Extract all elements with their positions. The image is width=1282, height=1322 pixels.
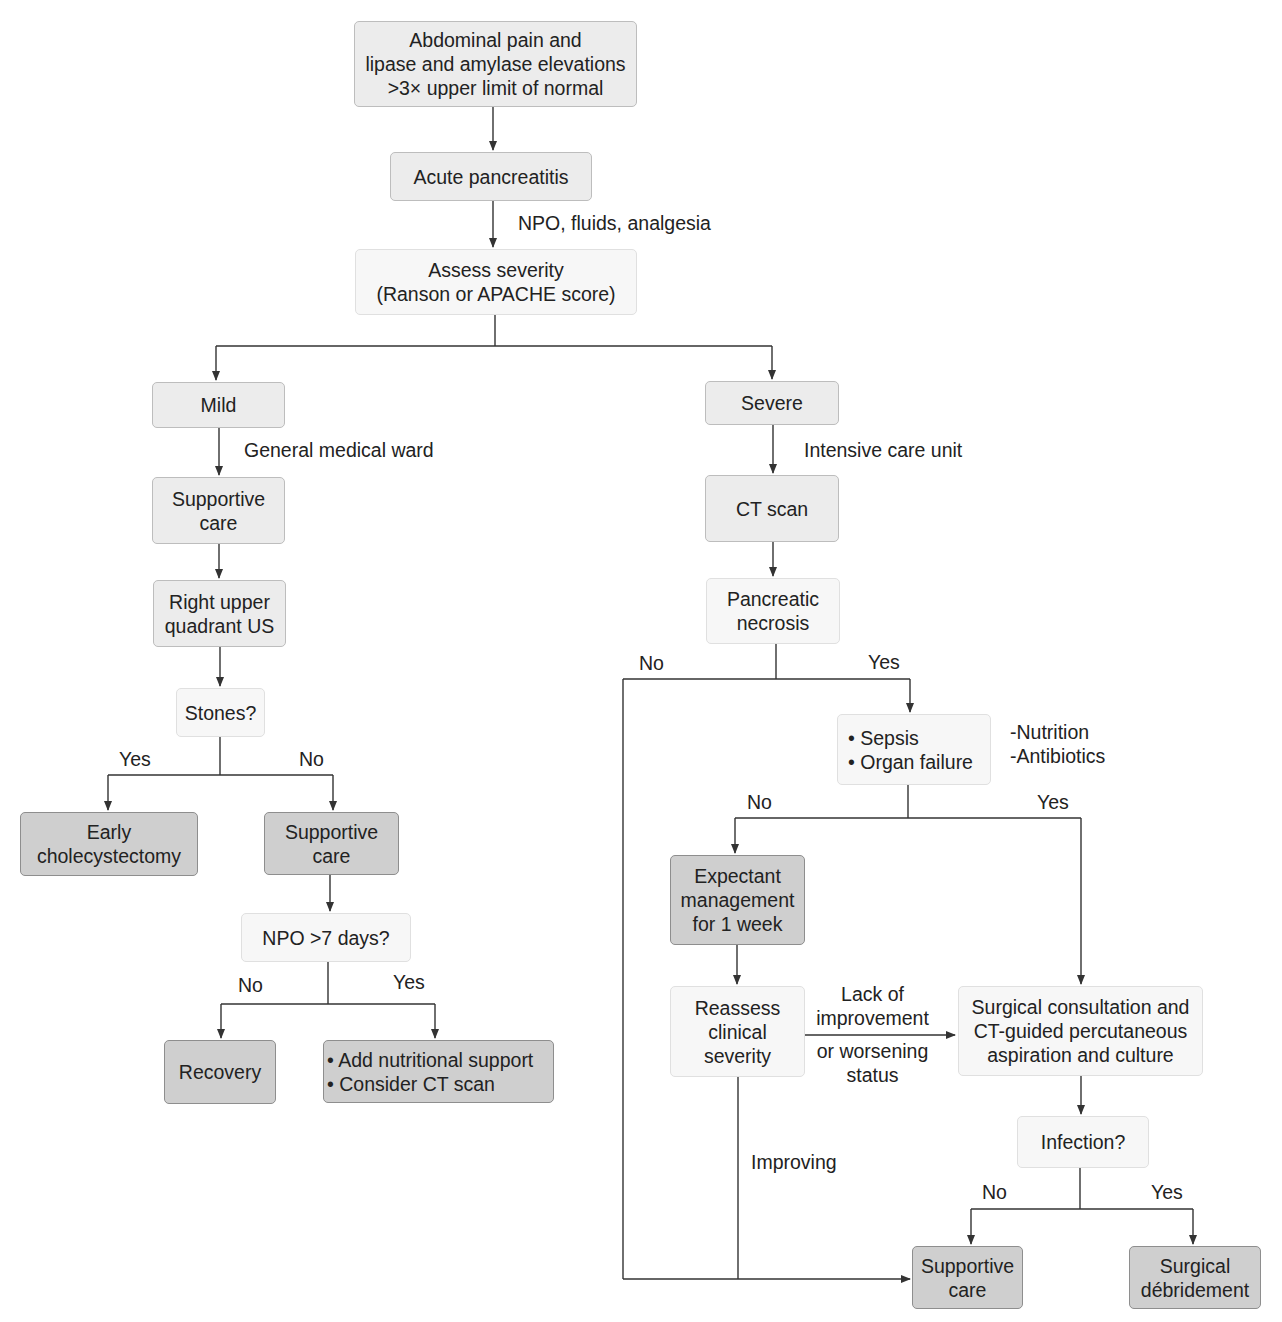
node-mild: Mild	[152, 382, 285, 428]
node-early-cholecystectomy: Early cholecystectomy	[20, 812, 198, 876]
node-acute-pancreatitis: Acute pancreatitis	[390, 152, 592, 201]
label-necrosis-yes: Yes	[868, 650, 900, 674]
node-npo-7-days-question: NPO >7 days?	[241, 913, 411, 962]
node-surgical-debridement: Surgical débridement	[1129, 1246, 1261, 1309]
node-recovery: Recovery	[164, 1040, 276, 1104]
node-supportive-care-mild: Supportive care	[152, 477, 285, 544]
node-pancreatic-necrosis: Pancreatic necrosis	[706, 578, 840, 644]
node-sepsis-organ-failure: • Sepsis • Organ failure	[837, 714, 991, 785]
label-stones-no: No	[299, 747, 324, 771]
node-severe: Severe	[705, 381, 839, 425]
label-npo-fluids-analgesia: NPO, fluids, analgesia	[518, 211, 711, 235]
label-stones-yes: Yes	[119, 747, 151, 771]
node-ct-scan: CT scan	[705, 475, 839, 542]
label-worsening-status: or worsening status	[810, 1039, 935, 1087]
node-nutrition-ct: • Add nutritional support • Consider CT …	[323, 1040, 554, 1103]
label-infection-yes: Yes	[1151, 1180, 1183, 1204]
label-npo7-yes: Yes	[393, 970, 425, 994]
label-intensive-care-unit: Intensive care unit	[804, 438, 962, 462]
pancreatitis-flowchart: Abdominal pain and lipase and amylase el…	[0, 0, 1282, 1322]
node-reassess-severity: Reassess clinical severity	[670, 986, 805, 1077]
label-necrosis-no: No	[639, 651, 664, 675]
label-nutrition-antibiotics: -Nutrition -Antibiotics	[1010, 720, 1105, 768]
label-infection-no: No	[982, 1180, 1007, 1204]
label-general-medical-ward: General medical ward	[244, 438, 434, 462]
node-surgical-consultation: Surgical consultation and CT-guided perc…	[958, 986, 1203, 1076]
node-supportive-care-final: Supportive care	[912, 1246, 1023, 1309]
label-sepsis-yes: Yes	[1037, 790, 1069, 814]
node-assess-severity: Assess severity (Ranson or APACHE score)	[355, 249, 637, 315]
node-stones-question: Stones?	[176, 688, 265, 737]
label-npo7-no: No	[238, 973, 263, 997]
node-start: Abdominal pain and lipase and amylase el…	[354, 21, 637, 107]
node-infection-question: Infection?	[1017, 1116, 1149, 1168]
node-supportive-care-no-stones: Supportive care	[264, 812, 399, 875]
label-lack-of-improvement: Lack of improvement	[810, 982, 935, 1030]
label-sepsis-no: No	[747, 790, 772, 814]
label-improving: Improving	[751, 1150, 837, 1174]
node-ruq-ultrasound: Right upper quadrant US	[153, 580, 286, 647]
node-expectant-management: Expectant management for 1 week	[670, 855, 805, 945]
